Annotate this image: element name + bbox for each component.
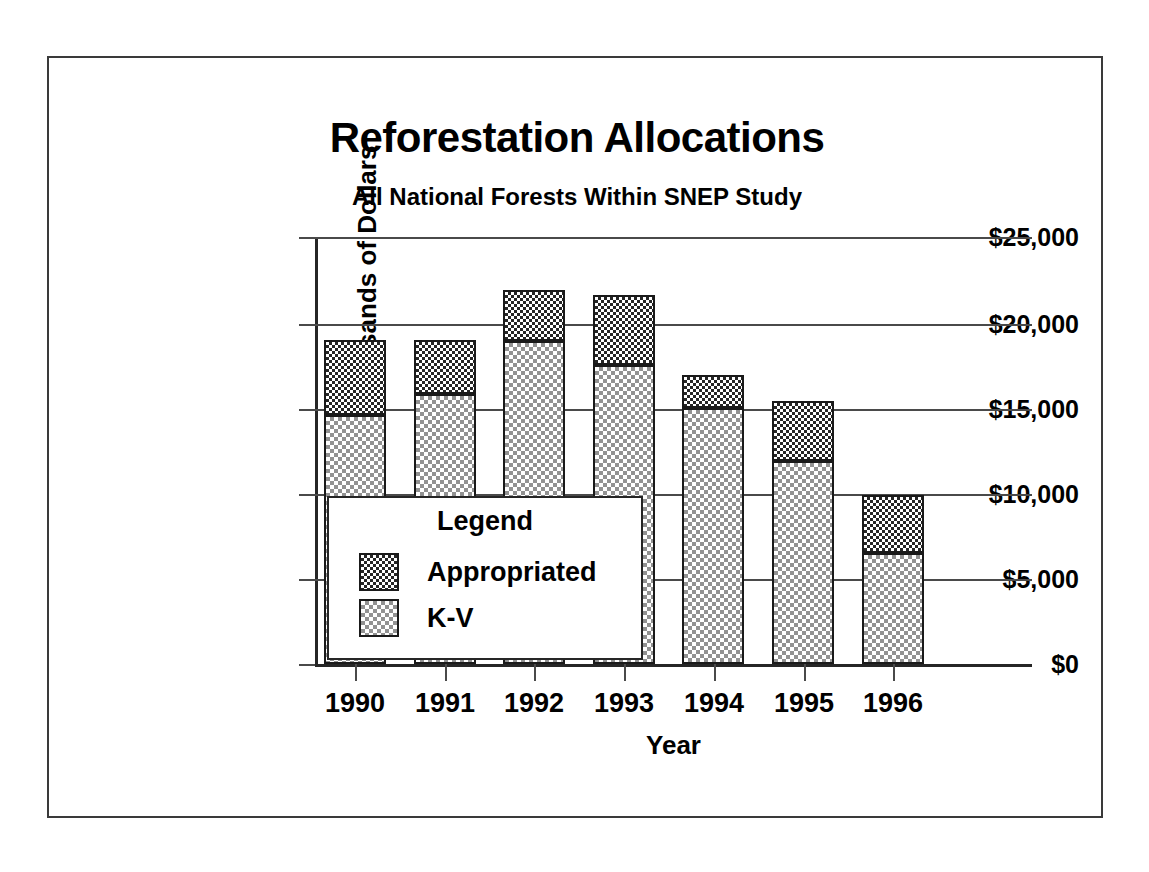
- y-axis-tick: [299, 409, 315, 411]
- bar-segment-kv[interactable]: [772, 461, 834, 664]
- chart-title: Reforestation Allocations: [49, 114, 1105, 162]
- bar-segment-appropriated[interactable]: [324, 340, 386, 415]
- chart-subtitle: All National Forests Within SNEP Study: [49, 183, 1105, 211]
- legend-label: K-V: [427, 603, 474, 634]
- bar-segment-appropriated[interactable]: [862, 495, 924, 553]
- gridline-25000: [315, 237, 1032, 239]
- x-axis-tick: [624, 664, 626, 681]
- x-axis-tick-label: 1992: [504, 688, 564, 719]
- x-axis-tick: [893, 664, 895, 681]
- y-axis-tick: [299, 664, 315, 666]
- legend-item-appropriated[interactable]: Appropriated: [359, 552, 597, 592]
- bar-group-1996[interactable]: [862, 495, 924, 664]
- bar-segment-appropriated[interactable]: [414, 340, 476, 395]
- bar-segment-appropriated[interactable]: [503, 290, 565, 341]
- x-axis-tick: [804, 664, 806, 681]
- x-axis-tick: [355, 664, 357, 681]
- y-axis-tick: [299, 494, 315, 496]
- x-axis-tick: [534, 664, 536, 681]
- x-axis-tick-label: 1995: [774, 688, 834, 719]
- x-axis-tick-label: 1993: [594, 688, 654, 719]
- gridline-20000: [315, 324, 1032, 326]
- bar-group-1995[interactable]: [772, 401, 834, 664]
- bar-segment-kv[interactable]: [682, 408, 744, 664]
- legend-item-kv[interactable]: K-V: [359, 598, 474, 638]
- legend-title: Legend: [329, 506, 641, 537]
- y-axis-tick: [299, 324, 315, 326]
- x-axis-title: Year: [315, 730, 1032, 761]
- legend-box: Legend Appropriated K-V: [327, 496, 643, 660]
- bar-segment-appropriated[interactable]: [682, 375, 744, 407]
- bar-segment-kv[interactable]: [862, 553, 924, 664]
- x-axis-tick: [714, 664, 716, 681]
- bar-segment-appropriated[interactable]: [593, 295, 655, 365]
- bar-segment-appropriated[interactable]: [772, 401, 834, 461]
- chart-frame: Reforestation Allocations All National F…: [47, 56, 1103, 818]
- y-axis-tick-label: $0: [1051, 650, 1079, 679]
- y-axis-spine: [315, 237, 318, 664]
- x-axis-tick: [445, 664, 447, 681]
- x-axis-tick-label: 1991: [415, 688, 475, 719]
- legend-swatch-kv-icon: [359, 599, 399, 637]
- legend-swatch-appropriated-icon: [359, 553, 399, 591]
- bar-group-1994[interactable]: [682, 375, 744, 664]
- y-axis-tick: [299, 237, 315, 239]
- legend-label: Appropriated: [427, 557, 597, 588]
- x-axis-line: [315, 664, 1032, 667]
- x-axis-tick-label: 1996: [863, 688, 923, 719]
- y-axis-tick: [299, 579, 315, 581]
- x-axis-tick-label: 1990: [325, 688, 385, 719]
- x-axis-tick-label: 1994: [684, 688, 744, 719]
